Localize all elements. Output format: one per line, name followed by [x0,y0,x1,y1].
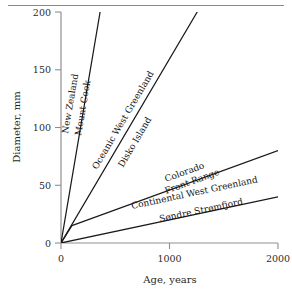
x-tick-label-1000: 1000 [157,253,181,264]
y-tick-label-0: 0 [45,238,51,249]
y-tick-label-200: 200 [33,7,51,18]
y-tick-label-50: 50 [39,180,51,191]
y-tick-label-100: 100 [33,122,51,133]
growth-curve-chart: 200 150 100 50 0 0 1000 2000 Age, years … [0,0,292,289]
y-axis-title: Diameter, mm [11,91,22,163]
x-tick-label-2000: 2000 [266,253,290,264]
y-tick-label-150: 150 [33,64,51,75]
x-tick-label-0: 0 [58,253,64,264]
x-axis-title: Age, years [142,274,196,285]
lichenometry-growth-curve-figure: 200 150 100 50 0 0 1000 2000 Age, years … [0,0,292,289]
